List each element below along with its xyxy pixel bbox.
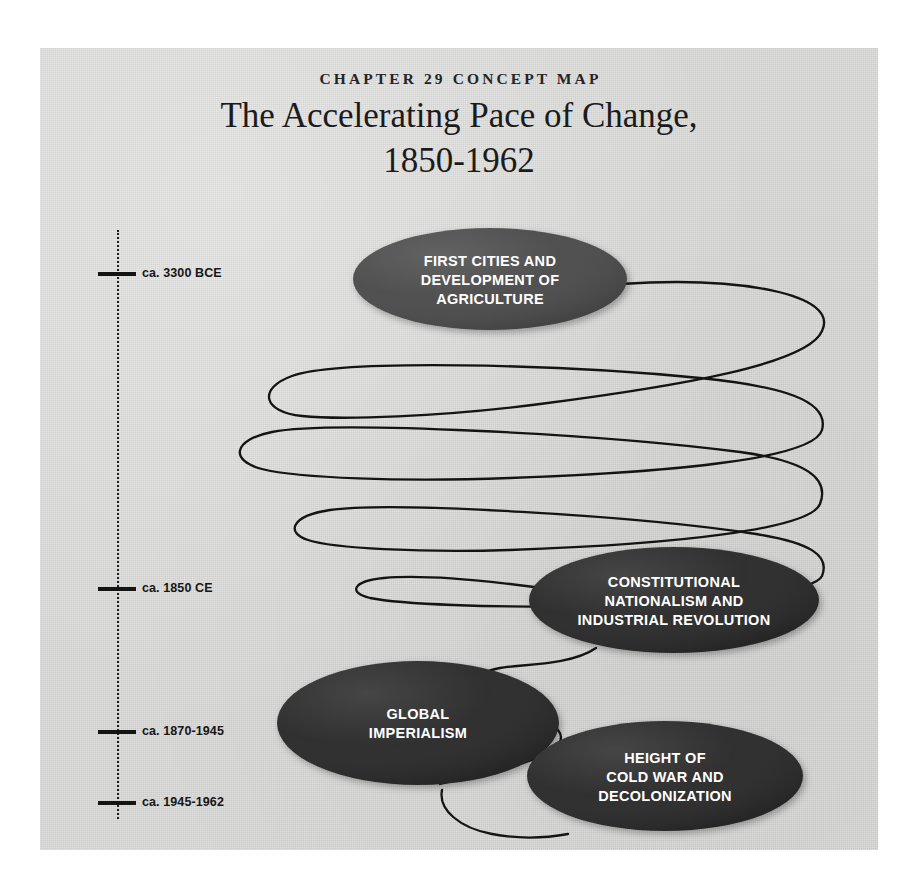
concept-map-diagram: FIRST CITIES ANDDEVELOPMENT OFAGRICULTUR… — [40, 48, 878, 850]
node-global-imperialism[interactable]: GLOBALIMPERIALISM — [277, 661, 559, 785]
node-first-cities[interactable]: FIRST CITIES ANDDEVELOPMENT OFAGRICULTUR… — [353, 228, 627, 330]
concept-map-figure: CHAPTER 29 CONCEPT MAP The Accelerating … — [0, 0, 917, 896]
node-label: FIRST CITIES ANDDEVELOPMENT OFAGRICULTUR… — [421, 253, 560, 307]
node-constitutional-nationalism[interactable]: CONSTITUTIONALNATIONALISM ANDINDUSTRIAL … — [529, 547, 819, 653]
node-cold-war[interactable]: HEIGHT OFCOLD WAR ANDDECOLONIZATION — [527, 721, 803, 831]
paper-panel: CHAPTER 29 CONCEPT MAP The Accelerating … — [40, 48, 878, 850]
node-sheen — [277, 661, 559, 785]
